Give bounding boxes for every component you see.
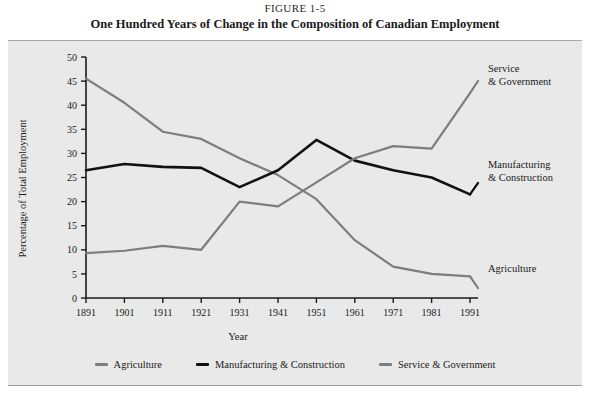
x-tick-label: 1901 (114, 307, 134, 318)
y-axis-title: Percentage of Total Employment (17, 89, 28, 289)
plot-area: 0510152025303540455018911901191119211931… (8, 41, 582, 385)
figure-title: One Hundred Years of Change in the Compo… (0, 16, 590, 32)
figure-number: FIGURE 1-5 (0, 2, 590, 15)
y-tick-label: 0 (72, 293, 77, 304)
annotation-agriculture: Agriculture (488, 263, 536, 276)
annotation-service-line2: & Government (488, 76, 551, 89)
annotation-service-line1: Service (488, 63, 551, 76)
x-tick-label: 1891 (76, 307, 96, 318)
annotation-leader-line (470, 81, 478, 93)
series-line (86, 79, 470, 277)
chart-panel: 0510152025303540455018911901191119211931… (8, 41, 582, 386)
legend-label: Service & Government (398, 359, 495, 370)
legend-item: Agriculture (95, 359, 162, 370)
y-tick-label: 25 (67, 172, 77, 183)
legend-label: Manufacturing & Construction (215, 359, 345, 370)
x-tick-label: 1981 (422, 307, 442, 318)
x-tick-label: 1911 (153, 307, 173, 318)
y-tick-label: 45 (67, 76, 77, 87)
x-tick-label: 1941 (268, 307, 288, 318)
y-tick-label: 30 (67, 148, 77, 159)
x-tick-label: 1951 (306, 307, 326, 318)
y-tick-label: 35 (67, 124, 77, 135)
annotation-manufacturing-line2: & Construction (488, 172, 553, 185)
legend-swatch-icon (95, 363, 108, 366)
annotation-service-government: Service & Government (488, 63, 551, 88)
x-tick-label: 1931 (230, 307, 250, 318)
annotation-manufacturing-line1: Manufacturing (488, 159, 553, 172)
chart-legend: AgricultureManufacturing & ConstructionS… (8, 359, 582, 370)
legend-item: Manufacturing & Construction (196, 359, 345, 370)
y-tick-label: 20 (67, 196, 77, 207)
y-tick-label: 50 (67, 52, 77, 63)
legend-item: Service & Government (379, 359, 495, 370)
x-tick-label: 1961 (345, 307, 365, 318)
y-tick-label: 10 (67, 244, 77, 255)
annotation-leader-line (470, 183, 478, 194)
legend-label: Agriculture (114, 359, 162, 370)
figure-header: FIGURE 1-5 One Hundred Years of Change i… (0, 2, 590, 32)
x-tick-label: 1991 (460, 307, 480, 318)
x-tick-label: 1921 (191, 307, 211, 318)
legend-swatch-icon (196, 363, 209, 366)
y-tick-label: 40 (67, 100, 77, 111)
x-axis-title: Year (8, 331, 468, 342)
legend-swatch-icon (379, 363, 392, 366)
annotation-manufacturing-construction: Manufacturing & Construction (488, 159, 553, 184)
y-tick-label: 5 (72, 269, 77, 280)
annotation-leader-line (470, 276, 478, 288)
figure-page: FIGURE 1-5 One Hundred Years of Change i… (0, 0, 590, 393)
x-tick-label: 1971 (383, 307, 403, 318)
y-tick-label: 15 (67, 220, 77, 231)
